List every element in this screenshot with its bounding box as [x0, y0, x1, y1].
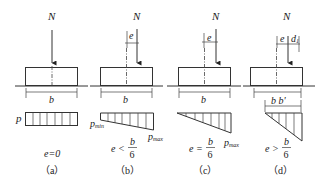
load-label: N — [132, 10, 141, 22]
load-label: N — [47, 10, 56, 22]
eccentricity-label: e — [207, 32, 212, 43]
svg-text:6: 6 — [284, 149, 289, 160]
svg-text:e <: e < — [111, 143, 125, 154]
foundation-pressure-diagram: N b p e=0 （a） N e — [0, 0, 324, 189]
width-label: b — [49, 94, 54, 105]
svg-text:b: b — [208, 136, 213, 147]
panel-d: N e d1 b b' e > b 6 （d） — [243, 10, 315, 176]
svg-text:6: 6 — [130, 149, 135, 160]
condition-label: e > b 6 — [265, 136, 291, 160]
panel-c: N e b pmax e = b 6 （c） — [167, 10, 241, 176]
load-label: N — [211, 10, 220, 22]
uniform-pressure-distribution — [26, 113, 78, 126]
panel-label: （c） — [193, 165, 217, 176]
condition-label: e=0 — [44, 148, 60, 159]
svg-text:b: b — [130, 136, 135, 147]
trapezoid-pressure-distribution — [101, 113, 154, 130]
p-max-label: pmax — [147, 131, 163, 142]
panel-label: （b） — [115, 165, 140, 176]
footing — [26, 68, 78, 86]
panel-label: （a） — [40, 165, 64, 176]
eccentricity-label: e — [280, 33, 285, 44]
svg-text:e =: e = — [189, 143, 203, 154]
p-min-label: pmin — [89, 118, 104, 129]
load-label: N — [282, 10, 291, 22]
panel-a: N b p e=0 （a） — [15, 10, 88, 176]
svg-text:e >: e > — [265, 143, 279, 154]
p-max-label: pmax — [223, 137, 239, 148]
svg-text:6: 6 — [208, 149, 213, 160]
panel-b: N e b pmin pmax e < b 6 （b） — [89, 10, 163, 176]
eccentricity-label: e — [129, 30, 134, 41]
b-prime-label: b b' — [271, 95, 287, 106]
width-label: b — [201, 94, 206, 105]
condition-label: e < b 6 — [111, 136, 137, 160]
condition-label: e = b 6 — [189, 136, 215, 160]
svg-text:b: b — [284, 136, 289, 147]
triangle-pressure-distribution — [177, 113, 231, 133]
width-label: b — [123, 94, 128, 105]
panel-label: （d） — [268, 165, 293, 176]
pressure-label-p: p — [15, 112, 22, 124]
d1-label: d1 — [291, 33, 299, 44]
